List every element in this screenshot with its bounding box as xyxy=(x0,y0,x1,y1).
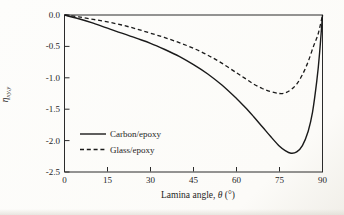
x-tick-label: 30 xyxy=(146,175,156,185)
x-tick-label: 90 xyxy=(318,175,328,185)
y-axis-title-subscript: xy,y xyxy=(4,87,12,98)
curve-carbon-epoxy xyxy=(65,15,323,153)
line-chart: 0.0-0.5-1.0-1.5-2.0-2.5 0153045607590 Ca… xyxy=(0,0,344,215)
x-axis-title: Lamina angle, θ (°) xyxy=(118,190,278,200)
x-tick-label: 45 xyxy=(189,175,199,185)
y-axis-ticks: 0.0-0.5-1.0-1.5-2.0-2.5 xyxy=(46,10,70,177)
figure-page: 0.0-0.5-1.0-1.5-2.0-2.5 0153045607590 Ca… xyxy=(0,0,344,215)
y-tick-label: -2.0 xyxy=(46,136,61,146)
x-axis-title-text: Lamina angle, xyxy=(161,190,218,200)
x-tick-label: 60 xyxy=(232,175,242,185)
x-axis-title-units: (°) xyxy=(222,190,235,200)
y-tick-label: -1.5 xyxy=(46,104,61,114)
x-tick-label: 0 xyxy=(62,175,67,185)
y-tick-label: -0.5 xyxy=(46,41,61,51)
plot-frame xyxy=(65,15,323,172)
curves xyxy=(65,15,323,153)
legend-label-glass-epoxy: Glass/epoxy xyxy=(110,145,155,155)
x-tick-label: 15 xyxy=(103,175,113,185)
legend: Carbon/epoxyGlass/epoxy xyxy=(80,129,161,155)
x-tick-label: 75 xyxy=(275,175,285,185)
eta-symbol: η xyxy=(0,97,10,102)
legend-label-carbon-epoxy: Carbon/epoxy xyxy=(110,129,161,139)
y-tick-label: -2.5 xyxy=(46,167,61,177)
y-axis-title: ηxy,y xyxy=(0,54,12,134)
x-axis-ticks: 0153045607590 xyxy=(62,167,327,185)
y-tick-label: -1.0 xyxy=(46,73,61,83)
y-tick-label: 0.0 xyxy=(49,10,61,20)
